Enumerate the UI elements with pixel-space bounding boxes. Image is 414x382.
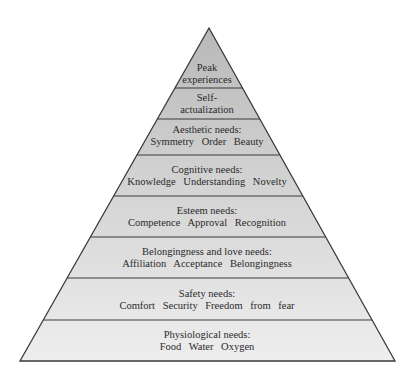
level-title: Cognitive needs: <box>0 164 414 176</box>
level-title: Aesthetic needs: <box>0 124 414 136</box>
level-items: Competence Approval Recognition <box>0 217 414 229</box>
level-cognitive: Cognitive needs: Knowledge Understanding… <box>0 164 414 188</box>
level-items: Knowledge Understanding Novelty <box>0 176 414 188</box>
level-title: Safety needs: <box>0 288 414 300</box>
level-self-actualization: Self- actualization <box>0 92 414 116</box>
level-items: Affiliation Acceptance Belongingness <box>0 258 414 270</box>
level-peak: Peak experiences <box>0 62 414 86</box>
level-items: experiences <box>0 74 414 86</box>
pyramid-diagram <box>0 0 414 382</box>
level-belongingness: Belongingness and love needs: Affiliatio… <box>0 246 414 270</box>
level-items: actualization <box>0 104 414 116</box>
level-title: Self- <box>0 92 414 104</box>
level-safety: Safety needs: Comfort Security Freedom f… <box>0 288 414 312</box>
level-items: Symmetry Order Beauty <box>0 136 414 148</box>
level-physiological: Physiological needs: Food Water Oxygen <box>0 329 414 353</box>
level-title: Peak <box>0 62 414 74</box>
level-items: Comfort Security Freedom from fear <box>0 300 414 312</box>
level-title: Belongingness and love needs: <box>0 246 414 258</box>
level-title: Esteem needs: <box>0 205 414 217</box>
level-esteem: Esteem needs: Competence Approval Recogn… <box>0 205 414 229</box>
level-items: Food Water Oxygen <box>0 341 414 353</box>
level-title: Physiological needs: <box>0 329 414 341</box>
level-aesthetic: Aesthetic needs: Symmetry Order Beauty <box>0 124 414 148</box>
